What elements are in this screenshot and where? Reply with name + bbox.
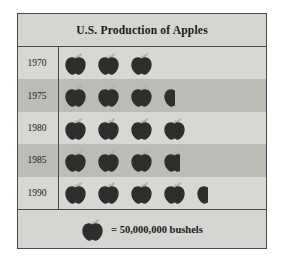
apple-icon [64, 180, 87, 205]
year-column-divider [58, 47, 59, 209]
row-year-label: 1970 [18, 58, 58, 68]
page-title: U.S. Production of Apples [76, 24, 208, 36]
apple-icon [130, 116, 153, 141]
apple-icon [97, 148, 120, 173]
apple-icon [163, 116, 186, 141]
apple-icon [81, 217, 104, 242]
apple-icon [130, 51, 153, 76]
row-year-label: 1980 [18, 123, 58, 133]
legend-label: = 50,000,000 bushels [111, 224, 203, 235]
apple-icon-track [58, 112, 266, 144]
apple-icon [130, 148, 153, 173]
apple-icon [97, 116, 120, 141]
apple-icon [64, 83, 87, 108]
apple-icon-partial [163, 83, 175, 108]
row-year-label: 1985 [18, 155, 58, 165]
apple-icon [97, 180, 120, 205]
table-row: 1985 [18, 144, 266, 176]
table-row: 1990 [18, 177, 266, 209]
apple-icon [130, 83, 153, 108]
row-year-label: 1990 [18, 188, 58, 198]
chart-legend: = 50,000,000 bushels [18, 210, 266, 248]
apple-icon [130, 180, 153, 205]
chart-title-band: U.S. Production of Apples [18, 14, 266, 47]
apple-icon [97, 83, 120, 108]
table-row: 1970 [18, 47, 266, 79]
apple-icon [97, 51, 120, 76]
apple-icon [64, 116, 87, 141]
apple-icon [64, 148, 87, 173]
apple-icon-partial [163, 148, 180, 173]
chart-plot-area: 19701975198019851990 [18, 47, 266, 210]
apple-icon-track [58, 47, 266, 79]
pictograph-chart: U.S. Production of Apples 19701975198019… [17, 13, 267, 249]
table-row: 1975 [18, 79, 266, 111]
apple-icon-partial [196, 180, 208, 205]
apple-icon [163, 180, 186, 205]
apple-icon-track [58, 79, 266, 111]
table-row: 1980 [18, 112, 266, 144]
apple-icon-track [58, 144, 266, 176]
apple-icon-track [58, 177, 266, 209]
row-year-label: 1975 [18, 91, 58, 101]
apple-icon [64, 51, 87, 76]
